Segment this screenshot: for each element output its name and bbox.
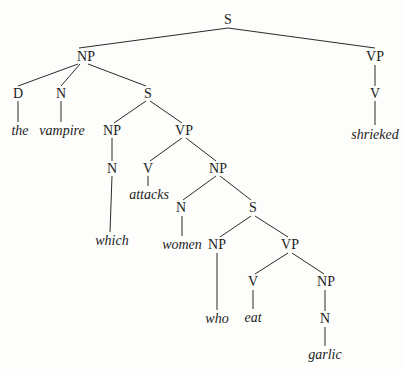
node-label-n1: N — [56, 87, 66, 101]
node-label-n2: N — [107, 162, 117, 176]
leaf-word-w_the: the — [11, 124, 28, 138]
tree-branch — [88, 64, 146, 86]
node-label-v1: V — [370, 87, 380, 101]
tree-branch — [220, 216, 251, 237]
node-label-s1: S — [224, 13, 232, 27]
leaf-word-w_women: women — [162, 238, 202, 252]
tree-branch — [150, 138, 182, 161]
node-label-v2: V — [143, 162, 153, 176]
node-label-np3: NP — [209, 162, 227, 176]
node-label-n4: N — [320, 312, 330, 326]
tree-branch — [18, 64, 78, 86]
node-label-np4: NP — [208, 238, 226, 252]
syntax-tree-diagram: SNPVPDNSVthevampireshriekedNPVPNVNPattac… — [0, 0, 402, 370]
tree-branch — [114, 101, 146, 123]
tree-edges — [0, 0, 402, 370]
node-label-vp3: VP — [281, 238, 299, 252]
node-label-vp2: VP — [175, 124, 193, 138]
tree-branch — [110, 176, 112, 232]
tree-branch — [183, 176, 216, 200]
tree-branch — [150, 101, 182, 123]
leaf-word-w_garlic: garlic — [308, 348, 341, 362]
tree-branch — [61, 64, 80, 86]
node-label-np2: NP — [103, 124, 121, 138]
leaf-word-w_shrieked: shrieked — [351, 128, 398, 142]
tree-branch — [255, 216, 288, 237]
leaf-word-w_which: which — [95, 234, 128, 248]
node-label-d1: D — [13, 87, 23, 101]
leaf-word-w_who: who — [205, 312, 228, 326]
tree-branch — [220, 176, 251, 200]
tree-branch — [292, 253, 324, 274]
node-label-v3: V — [248, 275, 258, 289]
leaf-word-w_eat: eat — [244, 311, 261, 325]
node-label-s3: S — [249, 201, 257, 215]
tree-branch — [255, 253, 288, 274]
leaf-word-w_vampire: vampire — [39, 124, 84, 138]
node-label-vp1: VP — [366, 50, 384, 64]
node-label-np1: NP — [77, 50, 95, 64]
leaf-word-w_attacks: attacks — [129, 188, 169, 202]
node-label-np5: NP — [317, 275, 335, 289]
tree-branch — [186, 138, 216, 161]
node-label-n3: N — [176, 201, 186, 215]
tree-branch — [228, 28, 375, 48]
tree-branch — [79, 28, 228, 48]
node-label-s2: S — [144, 87, 152, 101]
